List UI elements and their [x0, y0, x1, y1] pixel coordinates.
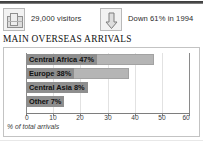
chart-plot-area: Central Africa 47%Europe 38%Central Asia…: [26, 53, 189, 113]
x-axis-tick-label: 0: [25, 115, 29, 122]
stat-change-label: Down 61% in 1994: [128, 15, 193, 23]
down-arrow-icon: [100, 8, 122, 31]
top-divider-rule: [0, 1, 203, 4]
stat-change: Down 61% in 1994: [100, 6, 193, 32]
chart-bar-label: Other 7%: [26, 96, 64, 107]
chart-bar-row: Other 7%: [26, 96, 189, 107]
chart-bar-row: Europe 38%: [26, 68, 189, 79]
x-axis-tick-label: 40: [131, 115, 138, 122]
summary-stats-strip: 29,000 visitors Down 61% in 1994: [0, 6, 203, 32]
chart-bar-row: Central Asia 8%: [26, 82, 189, 93]
chart-bar-label: Europe 38%: [26, 68, 74, 79]
chart-bar-label: Central Africa 47%: [26, 54, 97, 65]
x-axis-caption: % of total arrivals: [7, 124, 59, 131]
suitcase-icon: [3, 8, 25, 31]
x-axis-tick-label: 10: [49, 115, 56, 122]
x-axis-tick-label: 50: [158, 115, 165, 122]
chart-panel: Central Africa 47%Europe 38%Central Asia…: [3, 47, 200, 137]
chart-bar-row: Central Africa 47%: [26, 54, 189, 65]
x-axis-tick-label: 20: [76, 115, 83, 122]
stat-visitors-label: 29,000 visitors: [31, 15, 81, 23]
x-axis-tick-label: 30: [104, 115, 111, 122]
chart-bar-label: Central Asia 8%: [26, 82, 88, 93]
infographic-panel: 29,000 visitors Down 61% in 1994 MAIN OV…: [0, 0, 203, 144]
stat-visitors: 29,000 visitors: [3, 6, 81, 32]
x-axis-tick-label: 60: [182, 115, 189, 122]
grid-line: [189, 53, 190, 113]
page-title: MAIN OVERSEAS ARRIVALS: [3, 35, 132, 44]
bottom-divider-rule: [0, 140, 203, 141]
